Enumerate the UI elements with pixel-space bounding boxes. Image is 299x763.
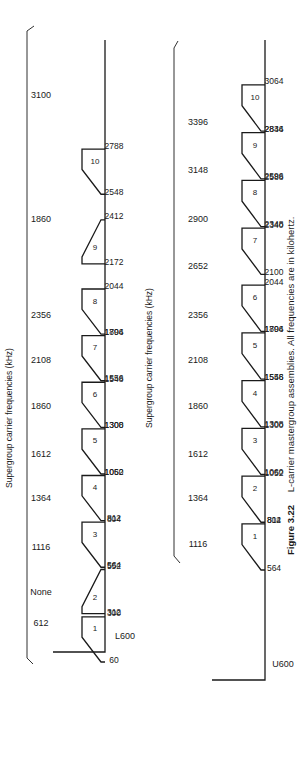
freq-high-label: 2788 (105, 141, 124, 151)
freq-high-label: 2044 (105, 281, 124, 291)
supergroup-number: 1 (93, 624, 98, 633)
supergroup-number: 6 (93, 390, 98, 399)
supergroup-number: 1 (253, 532, 258, 541)
freq-low-label: 2172 (105, 257, 124, 267)
supergroup-block (242, 180, 265, 226)
freq-low-label: 812 (107, 513, 121, 523)
supergroup-number: 6 (253, 293, 258, 302)
supergroup-number: 3 (253, 436, 258, 445)
carrier-frequency: 3100 (31, 90, 51, 100)
u600-assembly: Supergroup carrier frequencies (kHz) 111… (144, 40, 294, 680)
carrier-frequency: 2356 (31, 310, 51, 320)
freq-high-label: 2044 (265, 277, 284, 287)
supergroup-number: 8 (93, 297, 98, 306)
mastergroup-diagram: Supergroup carrier frequencies (kHz) 612… (0, 0, 299, 763)
carrier-frequency: 2108 (31, 355, 51, 365)
carrier-frequency: 1612 (188, 449, 208, 459)
diagram-canvas: Supergroup carrier frequencies (kHz) 612… (0, 0, 299, 763)
freq-low-label: 2100 (265, 267, 284, 277)
l600-carrier-list: 612None11161364161218602108235618603100 (30, 90, 52, 628)
supergroup-number: 2 (253, 484, 258, 493)
supergroup-block (242, 133, 265, 179)
supergroup-number: 3 (93, 530, 98, 539)
freq-high-label: 2412 (105, 211, 124, 221)
supergroup-number: 8 (253, 188, 258, 197)
supergroup-number: 7 (253, 236, 258, 245)
carrier-frequency: 1860 (31, 401, 51, 411)
l600-bracket (27, 26, 34, 664)
figure-number: Figure 3.22 (285, 505, 296, 555)
freq-low-label: 2548 (105, 187, 124, 197)
supergroup-number: 4 (93, 483, 98, 492)
freq-high-label: 3064 (265, 76, 284, 86)
freq-low-label: 2596 (265, 171, 284, 181)
freq-low-label: 1060 (105, 467, 124, 477)
carrier-frequency: 1364 (188, 493, 208, 503)
freq-low-label: 564 (107, 560, 121, 570)
supergroup-block (242, 333, 265, 379)
carrier-frequency: 2900 (188, 214, 208, 224)
u600-bracket (174, 41, 180, 563)
carrier-frequency: 2356 (188, 310, 208, 320)
carrier-frequency: 3396 (188, 117, 208, 127)
l600-label: L600 (115, 631, 135, 641)
figure-caption-text: L-carrier mastergroup assemblies. All fr… (285, 217, 296, 493)
supergroup-number: 7 (93, 343, 98, 352)
u600-carrier-list: 1116136416121860210823562652290031483396 (188, 117, 208, 549)
supergroup-number: 4 (253, 389, 258, 398)
supergroup-number: 2 (93, 593, 98, 602)
freq-low-label: 1804 (265, 324, 284, 334)
supergroup-number: 9 (253, 141, 258, 150)
freq-low-label: 312 (107, 607, 121, 617)
freq-low-label: 1060 (265, 467, 284, 477)
freq-low-label: 60 (109, 655, 119, 665)
freq-low-label: 1556 (105, 373, 124, 383)
supergroup-number: 10 (91, 157, 100, 166)
freq-low-label: 1308 (105, 420, 124, 430)
freq-low-label: 2844 (265, 124, 284, 134)
supergroup-block (242, 381, 265, 427)
supergroup-block (242, 228, 265, 274)
u600-label: U600 (272, 659, 294, 669)
u600-header: Supergroup carrier frequencies (kHz) (144, 288, 154, 428)
carrier-frequency: 2652 (188, 261, 208, 271)
carrier-frequency: 1116 (32, 542, 51, 552)
l600-header: Supergroup carrier frequencies (kHz) (4, 348, 14, 488)
carrier-frequency: 612 (33, 618, 48, 628)
u600-baseline (212, 40, 265, 680)
carrier-frequency: 3148 (188, 165, 208, 175)
freq-low-label: 812 (267, 515, 281, 525)
carrier-frequency: 1116 (189, 539, 208, 549)
l600-supergroup-blocks: 12345678910 (82, 149, 105, 662)
carrier-frequency: None (30, 587, 52, 597)
figure-caption: Figure 3.22 L-carrier mastergroup assemb… (285, 217, 296, 555)
freq-low-label: 1804 (105, 327, 124, 337)
supergroup-block (82, 220, 105, 264)
supergroup-block (242, 476, 265, 522)
l600-assembly: Supergroup carrier frequencies (kHz) 612… (4, 26, 135, 665)
freq-low-label: 564 (267, 563, 281, 573)
carrier-frequency: 1860 (31, 214, 51, 224)
supergroup-block (82, 570, 105, 614)
carrier-frequency: 1612 (31, 449, 51, 459)
supergroup-block (242, 428, 265, 474)
supergroup-number: 5 (253, 341, 258, 350)
u600-supergroup-blocks: 12345678910 (242, 85, 265, 570)
carrier-frequency: 1364 (31, 493, 51, 503)
supergroup-block (242, 285, 265, 331)
freq-low-label: 1556 (265, 372, 284, 382)
carrier-frequency: 1860 (188, 401, 208, 411)
supergroup-number: 5 (93, 436, 98, 445)
supergroup-block (242, 85, 265, 131)
freq-low-label: 2348 (265, 219, 284, 229)
u600-frequency-labels: 5648048121052106013001308154815561796180… (265, 76, 284, 572)
carrier-frequency: 2108 (188, 355, 208, 365)
svg-text:Figure 3.22 L-carrier: Figure 3.22 L-carrier mastergroup assemb… (285, 217, 296, 555)
supergroup-number: 10 (251, 93, 260, 102)
freq-low-label: 1308 (265, 419, 284, 429)
supergroup-number: 9 (93, 243, 98, 252)
supergroup-block (242, 524, 265, 570)
l600-frequency-labels: 6030031255256480481210521060130013081548… (105, 141, 124, 665)
